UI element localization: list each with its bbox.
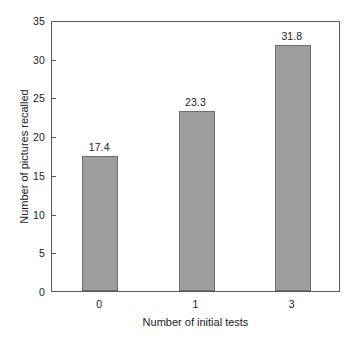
x-axis-tick-label: 3: [289, 298, 295, 310]
y-axis-tick-mark: [51, 253, 56, 254]
y-axis-title: Number of pictures recalled: [16, 21, 32, 292]
y-axis-tick-label: 5: [39, 247, 45, 259]
y-axis-tick-mark: [51, 137, 56, 138]
bar: [179, 111, 215, 291]
y-axis-tick-label: 10: [33, 209, 45, 221]
y-axis-tick-label: 25: [33, 92, 45, 104]
bar-value-label: 17.4: [69, 141, 129, 153]
bar-value-label: 31.8: [262, 30, 322, 42]
bar: [275, 45, 311, 291]
y-axis-tick-mark: [51, 176, 56, 177]
bar-chart-figure: 05101520253035 Number of pictures recall…: [0, 0, 359, 338]
plot-area: [51, 21, 340, 292]
y-axis-tick-label: 30: [33, 54, 45, 66]
y-axis-tick-mark: [51, 98, 56, 99]
x-axis-tick-label: 1: [193, 298, 199, 310]
x-axis-title: Number of initial tests: [51, 316, 340, 328]
y-axis-tick-mark: [51, 215, 56, 216]
bar: [82, 156, 118, 291]
x-axis-tick-label: 0: [96, 298, 102, 310]
y-axis-tick-label: 0: [39, 286, 45, 298]
y-axis-tick-mark: [51, 60, 56, 61]
y-axis-tick-label: 20: [33, 131, 45, 143]
y-axis-tick-label: 35: [33, 15, 45, 27]
y-axis-tick-label: 15: [33, 170, 45, 182]
bar-value-label: 23.3: [166, 96, 226, 108]
